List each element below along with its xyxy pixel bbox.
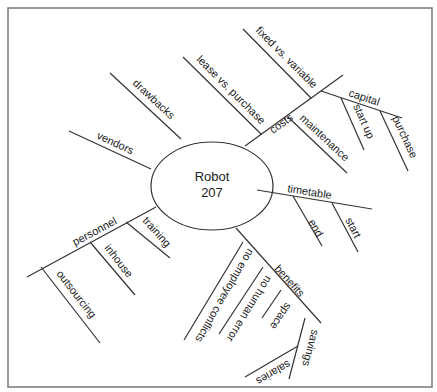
mind-map-diagram: Robot 207 vendors drawbacks costs lease … <box>0 0 437 392</box>
center-title: Robot <box>195 169 230 184</box>
center-number: 207 <box>201 185 223 200</box>
